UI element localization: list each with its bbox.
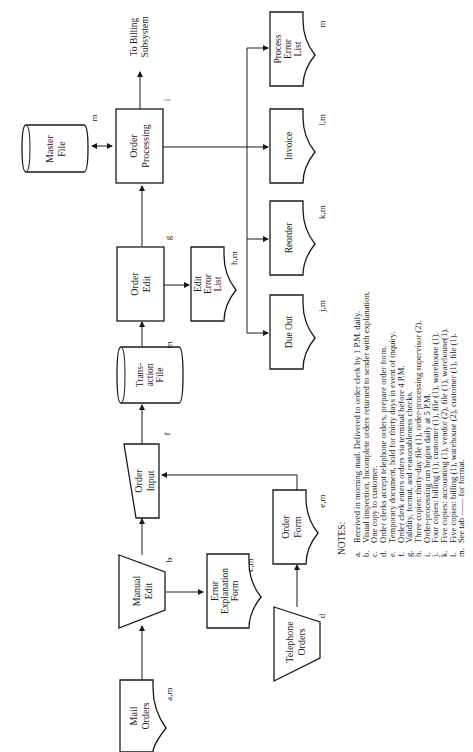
error-explanation-form-node: Error Explanation Form c,m: [207, 554, 261, 628]
manual-edit-label: Manual: [131, 576, 142, 607]
edit-error-list-node: Edit Error List h,m: [191, 247, 239, 321]
svg-text:j,m: j,m: [317, 300, 327, 313]
svg-text:Orders: Orders: [140, 702, 151, 729]
svg-text:c,m: c,m: [245, 558, 255, 571]
due-out-label: Due Out: [284, 315, 294, 348]
svg-text:Error: Error: [283, 38, 293, 59]
order-processing-node: Order Processing i: [116, 98, 172, 183]
due-out-node: Due Out j,m: [270, 295, 327, 369]
svg-text:d: d: [317, 613, 327, 618]
svg-text:m.: m.: [456, 548, 466, 557]
svg-text:List: List: [293, 41, 303, 56]
svg-text:h,m: h,m: [229, 251, 239, 265]
svg-text:Processing: Processing: [140, 124, 151, 167]
svg-text:File: File: [155, 368, 165, 383]
notes-section: NOTES: a. Received in morning mail. Deli…: [337, 291, 466, 558]
svg-text:m: m: [164, 341, 174, 348]
note-m: See tab —— for format.: [456, 459, 466, 543]
svg-text:Explanation: Explanation: [220, 568, 230, 614]
svg-text:k,m: k,m: [317, 205, 327, 219]
process-error-list-node: Process Error List m: [270, 12, 327, 86]
transaction-file-label: Trans-: [135, 363, 145, 387]
svg-text:g: g: [163, 235, 173, 240]
invoice-node: Invoice l,m: [270, 109, 327, 183]
svg-text:To Billing: To Billing: [129, 17, 139, 56]
transaction-file-node: Trans- action File m: [117, 341, 183, 403]
master-file-label: Master: [44, 134, 55, 162]
svg-text:Form: Form: [292, 516, 303, 538]
order-edit-label: Order: [129, 272, 140, 296]
reorder-node: Reorder k,m: [270, 201, 327, 275]
svg-text:action: action: [145, 363, 155, 386]
order-edit-node: Order Edit g: [117, 235, 173, 321]
master-file-node: Master File m: [22, 114, 99, 172]
telephone-orders-node: Telephone Orders d: [274, 607, 327, 681]
order-form-label: Order: [280, 515, 291, 539]
order-processing-tag: i: [162, 98, 172, 101]
mail-orders-node: Mail Orders a,m: [120, 680, 174, 752]
to-billing-label: To Billing Subsystem: [129, 16, 150, 58]
svg-text:Edit: Edit: [141, 275, 152, 292]
svg-text:Subsystem: Subsystem: [140, 16, 150, 58]
order-processing-flowchart: Master File m Order Processing i To Bill…: [0, 0, 473, 752]
svg-text:Form: Form: [230, 580, 240, 601]
invoice-label: Invoice: [284, 132, 294, 161]
error-explanation-form-label: Error: [210, 580, 220, 601]
svg-text:Error: Error: [203, 273, 213, 294]
master-file-tag: m: [89, 114, 99, 121]
svg-text:m: m: [317, 20, 327, 27]
order-form-node: Order Form e,m: [273, 490, 327, 564]
svg-text:Edit: Edit: [143, 582, 154, 599]
svg-text:e,m: e,m: [317, 494, 327, 507]
reorder-label: Reorder: [284, 222, 294, 253]
svg-text:f: f: [162, 433, 172, 436]
notes-title: NOTES:: [337, 522, 347, 555]
svg-text:Orders: Orders: [296, 628, 307, 655]
process-error-list-label: Process: [273, 34, 283, 63]
svg-text:List: List: [213, 276, 223, 291]
svg-text:a,m: a,m: [164, 687, 174, 700]
notes-list: a. Received in morning mail. Delivered t…: [352, 291, 466, 558]
order-input-label: Order: [133, 469, 144, 493]
manual-edit-node: Manual Edit b: [119, 555, 174, 628]
mail-orders-label: Mail: [128, 706, 139, 725]
svg-text:b: b: [164, 557, 174, 562]
telephone-orders-label: Telephone: [284, 621, 295, 663]
svg-text:File: File: [56, 141, 67, 157]
svg-text:l,m: l,m: [317, 114, 327, 126]
svg-text:Input: Input: [145, 470, 156, 491]
order-processing-label: Order: [128, 134, 139, 158]
edit-error-list-label: Edit: [193, 276, 203, 292]
